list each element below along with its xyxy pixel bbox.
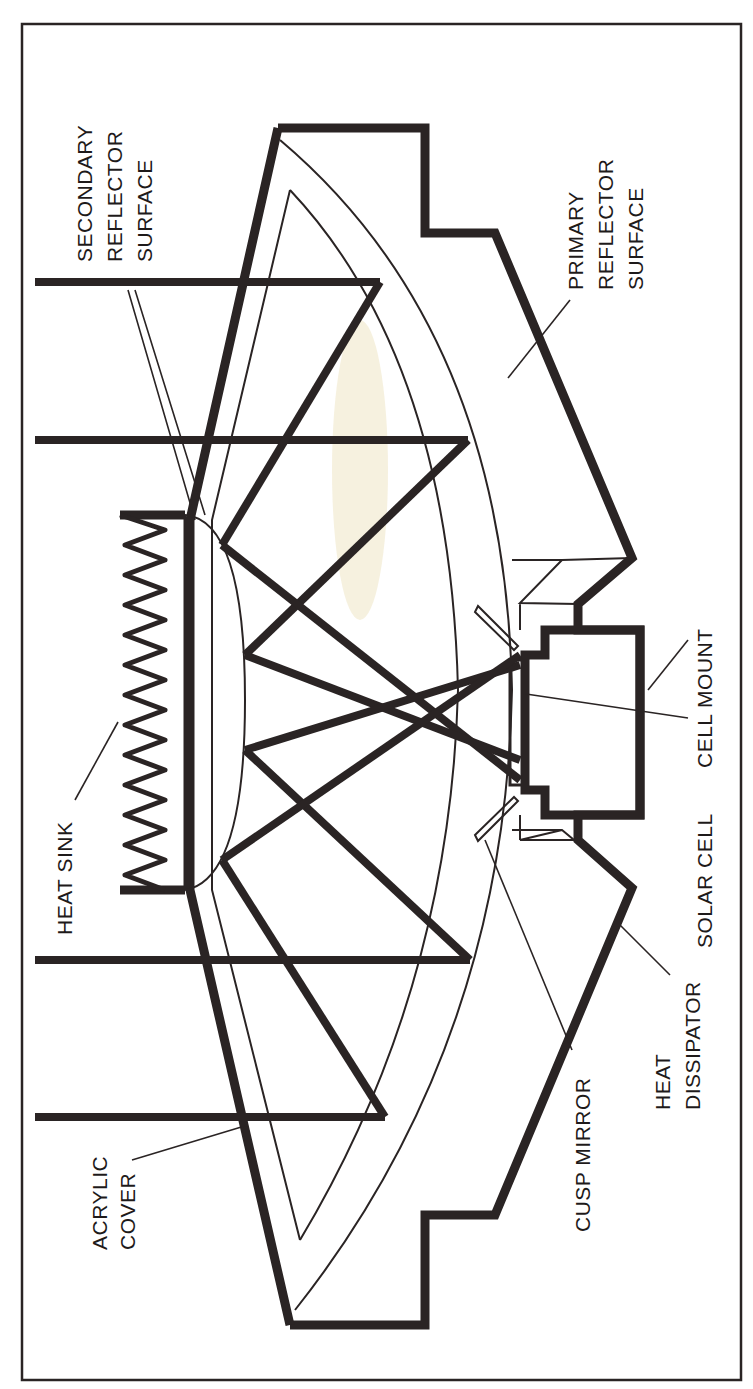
cell-mount — [525, 630, 640, 815]
label-cell-mount: CELL MOUNT — [693, 628, 716, 768]
svg-text:COVER: COVER — [116, 1173, 139, 1250]
pointer-primary-reflector — [508, 300, 570, 378]
heat-sink — [120, 515, 165, 890]
svg-text:SURFACE: SURFACE — [133, 159, 156, 262]
focused-ray-4 — [222, 655, 520, 860]
pointer-heat-dissipator — [615, 920, 670, 975]
label-acrylic-cover: ACRYLIC COVER — [88, 1156, 139, 1250]
svg-text:REFLECTOR: REFLECTOR — [103, 131, 126, 262]
pointer-solar-cell — [526, 694, 688, 718]
pointer-cell-mount — [648, 640, 688, 690]
paper-stain — [332, 320, 388, 620]
label-secondary-reflector: SECONDARY REFLECTOR SURFACE — [73, 125, 156, 262]
reflected-ray-3 — [245, 750, 470, 960]
pointer-acrylic-cover — [132, 1125, 248, 1160]
cusp-mirror-top — [475, 606, 518, 650]
concentrator-diagram: SECONDARY REFLECTOR SURFACE PRIMARY REFL… — [0, 0, 753, 1389]
pointer-cusp-mirror — [485, 840, 572, 1050]
label-primary-reflector: PRIMARY REFLECTOR SURFACE — [564, 159, 647, 290]
svg-text:ACRYLIC: ACRYLIC — [88, 1156, 111, 1250]
svg-text:DISSIPATOR: DISSIPATOR — [681, 981, 704, 1110]
label-cusp-mirror: CUSP MIRROR — [571, 1078, 594, 1232]
pointer-heat-sink — [75, 722, 118, 800]
svg-text:SURFACE: SURFACE — [624, 187, 647, 290]
label-heat-dissipator: HEAT DISSIPATOR — [651, 981, 704, 1110]
focused-ray-3 — [245, 665, 520, 750]
svg-text:PRIMARY: PRIMARY — [564, 191, 587, 290]
label-heat-sink: HEAT SINK — [53, 822, 76, 935]
svg-text:SECONDARY: SECONDARY — [73, 125, 96, 262]
acrylic-cover-edge — [190, 128, 290, 1325]
reflected-ray-4 — [222, 860, 385, 1117]
svg-text:HEAT: HEAT — [651, 1054, 674, 1110]
label-solar-cell: SOLAR CELL — [693, 813, 716, 948]
svg-text:REFLECTOR: REFLECTOR — [594, 159, 617, 290]
cusp-mirror-bottom — [475, 797, 518, 841]
